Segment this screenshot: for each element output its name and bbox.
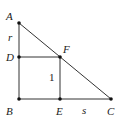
point-c: [109, 97, 113, 101]
label-b: B: [6, 105, 13, 117]
point-b: [17, 97, 21, 101]
label-e: E: [55, 105, 63, 117]
label-a: A: [5, 10, 13, 22]
point-f: [58, 55, 62, 59]
point-a: [17, 21, 21, 25]
segment-ac: [19, 23, 111, 99]
point-e: [58, 97, 62, 101]
label-f: F: [62, 43, 70, 55]
label-segment-ad: r: [8, 31, 13, 43]
label-c: C: [107, 105, 115, 117]
point-d: [17, 55, 21, 59]
label-segment-ec: s: [82, 104, 86, 116]
label-segment-ef: 1: [49, 71, 55, 83]
label-d: D: [5, 51, 14, 63]
geometry-diagram: A D F B E C r 1 s: [0, 0, 123, 126]
